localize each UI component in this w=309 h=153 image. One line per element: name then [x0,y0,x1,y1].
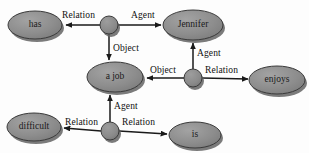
node-ellipse[interactable] [8,11,62,39]
edge-relation-difficult [64,128,101,131]
node-ellipse[interactable] [163,10,223,40]
node-circle[interactable] [184,69,202,87]
edge-label-relation-enjoys: Relation [205,66,238,76]
edge-relation-is [119,131,167,134]
edge-label-relation-difficult: Relation [65,118,98,128]
diagram-canvas: has Jennifer a job enjoys difficult is R… [0,0,309,153]
edge-label-relation-is: Relation [122,118,155,128]
node-ellipse[interactable] [87,62,143,92]
edge-label-relation-has: Relation [62,11,95,21]
concept-node-jennifer[interactable] [163,10,225,43]
concept-node-has[interactable] [8,11,64,42]
node-circle[interactable] [101,122,119,140]
concept-node-enjoys[interactable] [249,66,307,97]
concept-node-difficult[interactable] [7,113,63,144]
edge-label-agent-ajob-bottom: Agent [114,102,138,112]
relation-node-bottom[interactable] [101,122,121,143]
concept-node-is[interactable] [169,122,223,151]
node-ellipse[interactable] [169,122,221,148]
edge-label-object-ajob-top: Object [113,44,139,54]
semantic-network-graph [0,0,309,153]
edge-label-object-ajob-mid: Object [150,66,176,76]
concept-node-a-job[interactable] [87,62,145,95]
edge-relation-enjoys [202,78,248,79]
node-circle[interactable] [100,16,118,34]
edge-label-agent-jennifer: Agent [131,11,155,21]
node-ellipse[interactable] [7,113,61,141]
edge-label-agent-jennifer-mid: Agent [197,49,221,59]
node-ellipse[interactable] [249,66,305,94]
relation-node-middle[interactable] [184,69,204,90]
relation-node-top[interactable] [100,16,120,37]
